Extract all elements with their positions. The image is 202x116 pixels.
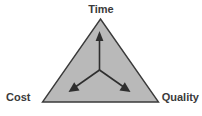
- vertex-label-cost: Cost: [6, 91, 30, 103]
- triangle-shape: [43, 19, 159, 102]
- vertex-label-quality: Quality: [162, 91, 199, 103]
- vertex-label-time: Time: [0, 3, 202, 15]
- project-triangle-diagram: Time Cost Quality: [0, 0, 202, 116]
